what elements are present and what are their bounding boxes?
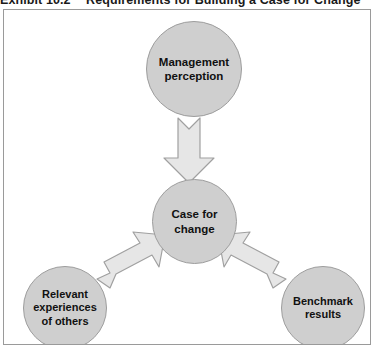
exhibit-figure: Exhibit 10.2Requirements for Building a … <box>0 0 375 347</box>
node-label-line: of others <box>29 315 101 328</box>
node-label-line: experiences <box>29 301 101 314</box>
arrow-down-icon <box>159 118 219 184</box>
node-label-line: change <box>167 222 221 236</box>
node-benchmark-results: Benchmark results <box>281 266 365 345</box>
node-label-line: perception <box>155 69 233 83</box>
node-management-perception: Management perception <box>146 21 242 117</box>
exhibit-title: Exhibit 10.2Requirements for Building a … <box>0 0 375 7</box>
node-label-line: Benchmark <box>289 295 357 308</box>
diagram-canvas: Management perception Case for change Re… <box>4 10 370 344</box>
exhibit-title-text: Requirements for Building a Case for Cha… <box>86 0 360 7</box>
node-case-for-change: Case for change <box>152 179 237 264</box>
node-label-line: Management <box>155 55 233 69</box>
node-label-line: Case for <box>167 207 221 221</box>
node-label-line: Relevant <box>29 288 101 301</box>
diagram-frame: Management perception Case for change Re… <box>3 9 371 345</box>
node-label-line: results <box>289 308 357 321</box>
node-relevant-experiences: Relevant experiences of others <box>23 266 107 345</box>
exhibit-number: Exhibit 10.2 <box>0 0 86 7</box>
